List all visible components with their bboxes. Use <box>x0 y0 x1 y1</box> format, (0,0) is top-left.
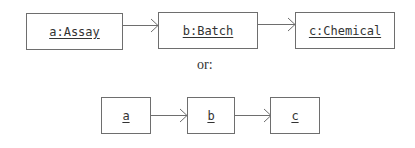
object-label: c <box>291 109 298 123</box>
object-box-b-batch: b:Batch <box>158 12 258 49</box>
object-box-c-chemical: c:Chemical <box>295 12 395 49</box>
arrow-row2-b-c <box>235 109 271 122</box>
object-box-c: c <box>270 97 320 134</box>
object-label: a:Assay <box>49 25 100 39</box>
object-box-b: b <box>187 97 235 134</box>
arrow-row1-a-b <box>122 19 158 32</box>
arrow-row2-a-b <box>150 109 187 122</box>
separator-text: or: <box>197 57 213 73</box>
object-box-a: a <box>101 97 151 134</box>
object-box-a-assay: a:Assay <box>26 13 123 50</box>
object-label: c:Chemical <box>309 24 381 38</box>
object-label: b:Batch <box>183 24 234 38</box>
object-label: b <box>207 109 214 123</box>
object-label: a <box>122 109 129 123</box>
diagram-canvas: a:Assay b:Batch c:Chemical or: a b c <box>0 0 415 148</box>
arrow-row1-b-c <box>258 18 295 31</box>
